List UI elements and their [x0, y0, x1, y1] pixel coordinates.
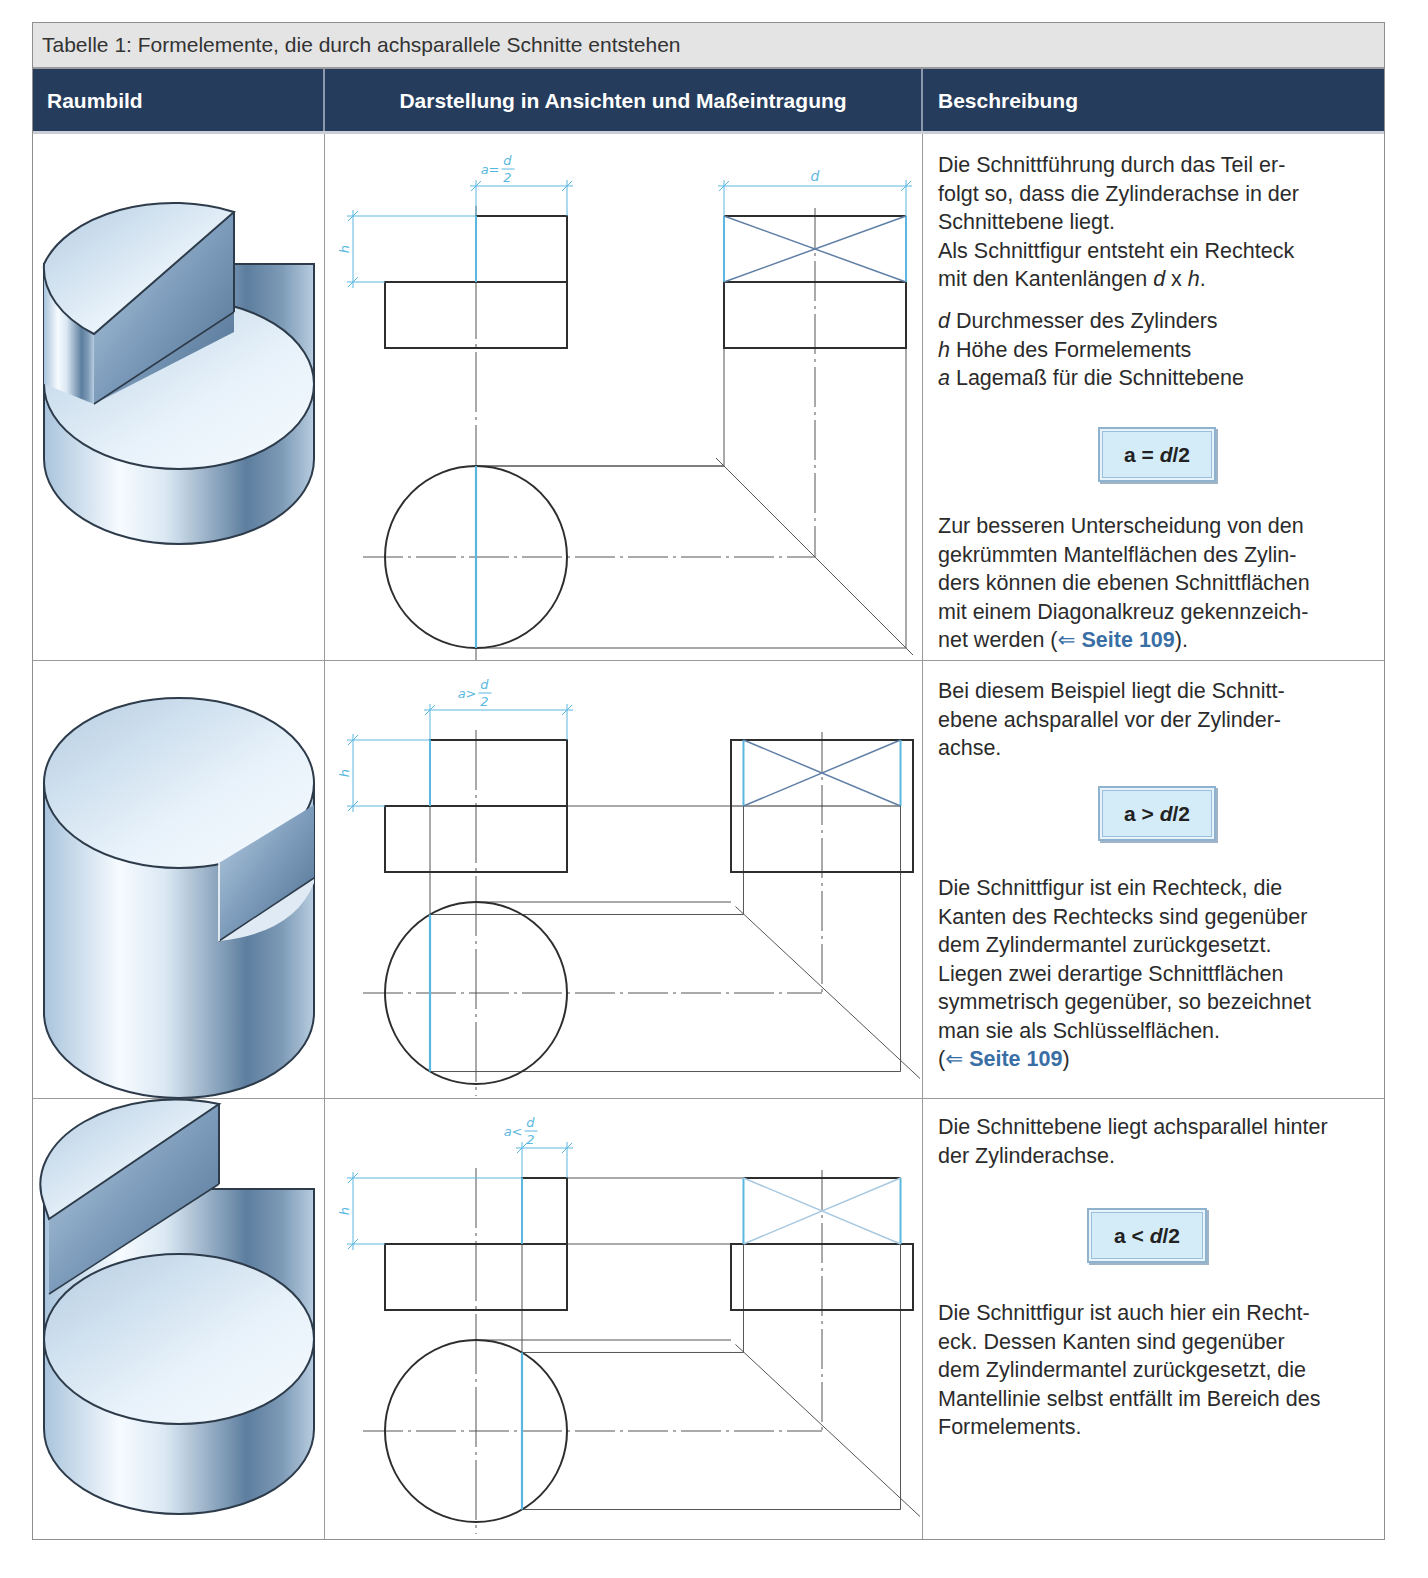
dimension-h-label: h: [337, 245, 352, 253]
description-paragraph: Die Schnittfigur ist ein Rechteck, die K…: [938, 874, 1311, 1074]
table-header-row: Raumbild Darstellung in Ansichten und Ma…: [33, 69, 1384, 134]
page-reference-link[interactable]: Seite 109: [1082, 628, 1175, 652]
cylinder-back-cut-icon: [33, 1099, 324, 1539]
description-paragraph: Die Schnittführung durch das Teil er- fo…: [938, 151, 1299, 294]
svg-text:a<: a<: [504, 1124, 523, 1139]
raumbild-cell: [33, 1099, 325, 1539]
formula-badge: a > d/2: [1098, 786, 1216, 841]
dimension-h-label: h: [337, 1207, 352, 1215]
description-paragraph: Bei diesem Beispiel liegt die Schnitt- e…: [938, 677, 1285, 763]
formelemente-table: Tabelle 1: Formelemente, die durch achsp…: [32, 22, 1385, 1540]
header-darstellung: Darstellung in Ansichten und Maßeintragu…: [325, 69, 923, 131]
svg-text:a>: a>: [458, 686, 477, 701]
orthographic-views-drawing: a=d2hd: [325, 134, 923, 661]
dimension-d-label: d: [811, 168, 820, 184]
raumbild-cell: [33, 661, 325, 1098]
description-cell: Die Schnittebene liegt achsparallel hint…: [923, 1099, 1384, 1539]
table-row: a<d2h Die Schnittebene liegt achsparalle…: [33, 1099, 1384, 1539]
svg-text:d: d: [503, 153, 512, 168]
arrow-left-icon: ⇐: [945, 1047, 969, 1071]
description-paragraph: Die Schnittfigur ist auch hier ein Recht…: [938, 1299, 1320, 1442]
orthographic-views-drawing: a>d2h: [325, 661, 923, 1099]
description-paragraph: Die Schnittebene liegt achsparallel hint…: [938, 1113, 1328, 1170]
drawing-cell: a>d2h: [325, 661, 923, 1098]
orthographic-views-drawing: a<d2h: [325, 1099, 923, 1539]
table-caption: Tabelle 1: Formelemente, die durch achsp…: [33, 23, 1384, 69]
description-paragraph: d Durchmesser des Zylinders h Höhe des F…: [938, 307, 1244, 393]
description-cell: Die Schnittführung durch das Teil er- fo…: [923, 134, 1384, 660]
formula-badge: a = d/2: [1098, 427, 1216, 482]
header-beschreibung: Beschreibung: [923, 69, 1384, 131]
arrow-left-icon: ⇐: [1058, 628, 1082, 652]
raumbild-cell: [33, 134, 325, 660]
description-paragraph: Zur besseren Unterscheidung von den gekr…: [938, 512, 1310, 655]
svg-text:a=: a=: [481, 162, 500, 177]
header-raumbild: Raumbild: [33, 69, 325, 131]
dimension-h-label: h: [337, 769, 352, 777]
svg-text:d: d: [526, 1115, 535, 1130]
drawing-cell: a=d2hd: [325, 134, 923, 660]
dimension-a-label: a<d2: [504, 1115, 538, 1147]
drawing-cell: a<d2h: [325, 1099, 923, 1539]
cylinder-flat-cut-icon: [33, 661, 324, 1099]
table-row: a=d2hd Die Schnittführung durch das Teil…: [33, 134, 1384, 661]
svg-text:2: 2: [480, 694, 488, 709]
page-reference-link[interactable]: Seite 109: [969, 1047, 1062, 1071]
dimension-a-label: a>d2: [458, 677, 492, 709]
svg-text:2: 2: [503, 170, 511, 185]
table-row: a>d2h Bei diesem Beispiel liegt die Schn…: [33, 661, 1384, 1099]
svg-text:d: d: [480, 677, 489, 692]
description-cell: Bei diesem Beispiel liegt die Schnitt- e…: [923, 661, 1384, 1098]
formula-badge: a < d/2: [1087, 1208, 1207, 1263]
cylinder-half-cut-icon: [33, 134, 324, 661]
svg-text:2: 2: [526, 1132, 534, 1147]
dimension-a-label: a=d2: [481, 153, 515, 185]
